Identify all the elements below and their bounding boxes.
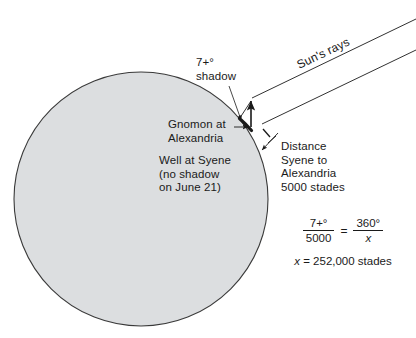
well-marker [263,129,270,137]
left-fraction: 7+° 5000 [303,216,335,245]
sun-ray-upper [252,19,416,98]
result-value: = 252,000 stades [300,255,392,267]
well-at-syene-label: Well at Syene (no shadow on June 21) [159,154,231,195]
equation-row: 7+° 5000 = 360° x [283,216,403,245]
shadow-ray-line [240,101,252,119]
earth-circle [14,72,268,326]
shadow-angle-label: 7+° shadow [196,56,236,83]
distance-label: Distance Syene to Alexandria 5000 stades [281,140,345,194]
gnomon-label: Gnomon at Alexandria [168,118,226,145]
sun-ray-lower [262,50,416,124]
left-denominator: 5000 [303,231,335,245]
equation-block: 7+° 5000 = 360° x x = 252,000 stades [283,216,403,267]
right-fraction: 360° x [353,216,383,245]
left-numerator: 7+° [307,216,331,230]
right-numerator: 360° [353,216,383,230]
equation-result: x = 252,000 stades [283,255,403,267]
right-denominator: x [362,231,374,245]
eratosthenes-diagram: 7+° shadow Gnomon at Alexandria Well at … [0,0,416,338]
equals-sign: = [340,224,347,238]
